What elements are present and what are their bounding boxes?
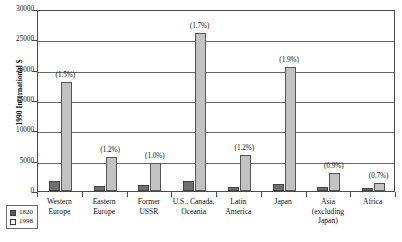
y-axis-tick-label: 25000 — [0, 36, 34, 43]
x-axis-label-line: (excluding — [297, 207, 359, 217]
x-axis-label-line: America — [207, 207, 269, 217]
legend: 1820 1998 — [6, 205, 38, 229]
bar-1998 — [195, 33, 206, 191]
bar-1998 — [106, 157, 117, 191]
legend-swatch-1998-icon — [10, 219, 16, 225]
bar-1998 — [150, 163, 161, 191]
bar-percent-label: (1.2%) — [214, 145, 274, 152]
bar-percent-label: (1.0%) — [125, 153, 185, 160]
bar-percent-label: (1.5%) — [35, 72, 95, 79]
bar-percent-label: (0.9%) — [304, 163, 364, 170]
bar-1998 — [61, 82, 72, 191]
bar-1820 — [138, 185, 149, 191]
bar-1998 — [374, 183, 385, 191]
y-axis-tick-label: 5000 — [0, 158, 34, 165]
bar-1998 — [285, 67, 296, 191]
bar-1820 — [273, 184, 284, 191]
gridline — [38, 102, 394, 103]
bar-1820 — [49, 181, 60, 191]
bar-percent-label: (0.7%) — [349, 173, 402, 180]
bar-1820 — [94, 186, 105, 191]
y-axis-tick-label: 10000 — [0, 127, 34, 134]
legend-item: 1998 — [10, 217, 33, 226]
bar-1998 — [329, 173, 340, 191]
bar-1820 — [228, 187, 239, 191]
gridline — [38, 132, 394, 133]
y-axis-tick-label: 20000 — [0, 67, 34, 74]
y-axis-tick-label: 0 — [0, 188, 34, 195]
y-axis-tick-label: 15000 — [0, 97, 34, 104]
growth-bar-chart: 1990 International $ 0500010000150002000… — [0, 0, 402, 242]
bar-1820 — [183, 181, 194, 191]
bar-1998 — [240, 155, 251, 191]
legend-item: 1820 — [10, 208, 33, 217]
x-axis-label-line: Africa — [342, 197, 402, 207]
y-axis-tick-label: 30000 — [0, 6, 34, 13]
bar-1820 — [317, 187, 328, 191]
legend-label-1820: 1820 — [19, 209, 33, 216]
bar-percent-label: (1.9%) — [259, 57, 319, 64]
bar-1820 — [362, 188, 373, 191]
legend-label-1998: 1998 — [19, 218, 33, 225]
bar-percent-label: (1.7%) — [170, 23, 230, 30]
gridline — [38, 41, 394, 42]
x-axis-label-line: Japan) — [297, 216, 359, 226]
x-axis-category-label: Africa — [342, 197, 402, 207]
legend-swatch-1820-icon — [10, 210, 16, 216]
